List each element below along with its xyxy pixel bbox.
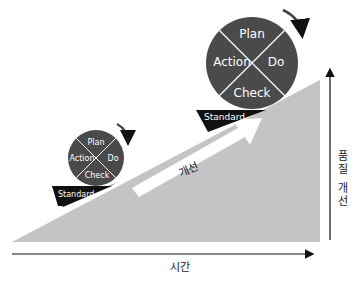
time-axis-label: 시간 (160, 258, 200, 274)
quality-axis-label: 품 질 개 선 (336, 150, 350, 208)
pdca-diagram: Plan Action Do Check Standard Plan Actio… (0, 0, 354, 285)
improvement-slope (12, 80, 320, 242)
large-standard-label: Standard (204, 112, 245, 122)
quality-axis-char: 개 (336, 182, 350, 195)
large-action-label: Action (213, 55, 251, 69)
small-do-label: Do (107, 154, 118, 163)
large-plan-label: Plan (239, 27, 265, 41)
quality-axis-char: 질 (336, 163, 350, 176)
large-check-label: Check (234, 86, 271, 100)
small-action-label: Action (69, 154, 94, 163)
small-standard-label: Standard (58, 190, 94, 199)
quality-axis-char: 선 (336, 195, 350, 208)
small-plan-label: Plan (87, 138, 104, 147)
quality-axis-char: 품 (336, 150, 350, 163)
small-check-label: Check (85, 171, 110, 180)
large-do-label: Do (268, 55, 285, 69)
